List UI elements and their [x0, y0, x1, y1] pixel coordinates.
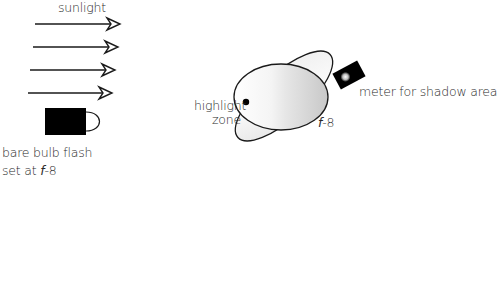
f-stop-value: -8: [322, 115, 334, 130]
f-stop-value: -8: [44, 163, 56, 178]
subject-f-stop-label: f-8: [318, 116, 334, 130]
highlight-label-line2: zone: [212, 113, 241, 127]
arrow-icon: [35, 18, 120, 30]
arrow-icon: [33, 41, 118, 53]
flash-label-line1: bare bulb flash: [2, 146, 92, 160]
sunlight-arrows: [28, 18, 120, 99]
sunlight-label: sunlight: [58, 1, 106, 15]
arrow-icon: [30, 64, 115, 76]
highlight-label-line1: highlight: [194, 99, 246, 113]
arrow-icon: [28, 87, 112, 99]
subject-icon: [223, 37, 346, 154]
flash-unit-icon: [45, 108, 100, 135]
flash-label-prefix: set at: [2, 163, 40, 178]
lighting-diagram: [0, 0, 497, 286]
meter-label: meter for shadow area: [359, 85, 497, 99]
flash-label-line2: set at f-8: [2, 164, 57, 178]
